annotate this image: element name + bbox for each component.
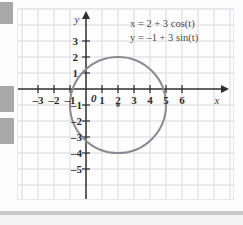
y-axis-arrow (82, 11, 90, 19)
x-tick-label-1: 1 (99, 94, 105, 106)
y-tick-label-1: 1 (73, 67, 79, 79)
y-tick-label-3: 3 (73, 35, 79, 47)
y-axis-label: y (74, 13, 80, 25)
equation-x: x = 2 + 3 cos(t) (130, 18, 195, 30)
equation-y: y = –1 + 3 sin(t) (130, 32, 199, 44)
figure-page: –3 –2 –1 1 2 3 4 5 6 3 2 1 –1 –2 –3 –4 –… (0, 0, 243, 225)
y-tick-label--2: –2 (70, 115, 83, 127)
x-tick-label-4: 4 (147, 94, 153, 106)
y-tick-label--4: –4 (70, 147, 83, 159)
x-tick-label-5: 5 (163, 94, 169, 106)
x-tick-label--3: –3 (32, 94, 45, 106)
parametric-circle-figure: –3 –2 –1 1 2 3 4 5 6 3 2 1 –1 –2 –3 –4 –… (17, 8, 234, 200)
x-axis-label: x (214, 94, 220, 106)
margin-marker-2 (0, 86, 14, 112)
bottom-strip (0, 215, 243, 225)
x-tick-label-3: 3 (131, 94, 137, 106)
x-tick-label-6: 6 (179, 94, 185, 106)
y-tick-label--3: –3 (70, 131, 83, 143)
x-axis-arrow (221, 85, 229, 93)
x-tick-label-2: 2 (115, 94, 121, 106)
y-tick-label--5: –5 (70, 163, 83, 175)
y-tick-label--1: –1 (70, 99, 82, 111)
graph-svg: –3 –2 –1 1 2 3 4 5 6 3 2 1 –1 –2 –3 –4 –… (18, 9, 233, 199)
x-tick-label--2: –2 (48, 94, 61, 106)
margin-marker-3 (0, 118, 14, 144)
y-tick-label-2: 2 (73, 51, 79, 63)
margin-marker-1 (0, 2, 13, 24)
origin-label: 0 (91, 92, 97, 104)
